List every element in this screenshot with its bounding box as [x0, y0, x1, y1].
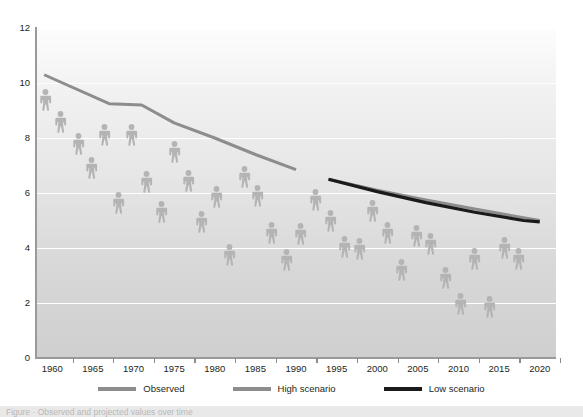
pictogram-person-icon: [54, 111, 67, 133]
pictogram-person-icon: [366, 200, 379, 222]
pictogram-person-icon: [381, 222, 394, 244]
pictogram-person-icon: [265, 222, 278, 244]
pictogram-person-icon: [395, 259, 408, 281]
y-tick-label: 2: [6, 298, 30, 307]
y-tick-label: 0: [6, 353, 30, 362]
pictogram-person-icon: [140, 171, 153, 193]
x-tick-mark: [438, 358, 439, 363]
pictogram-person-icon: [251, 185, 264, 207]
x-tick-mark: [194, 358, 195, 363]
pictogram-person-icon: [468, 248, 481, 270]
legend-item-low-scenario: Low scenario: [384, 384, 485, 394]
pictogram-person-icon: [483, 296, 496, 318]
y-tick-label: 12: [6, 23, 30, 32]
pictogram-person-icon: [424, 233, 437, 255]
caption-strip: Figure · Observed and projected values o…: [0, 406, 583, 417]
x-tick-label: 1965: [73, 364, 113, 374]
legend-swatch: [384, 387, 422, 391]
x-tick-mark: [154, 358, 155, 363]
pictogram-person-icon: [98, 124, 111, 146]
x-tick-label: 2010: [439, 364, 479, 374]
chart-legend: ObservedHigh scenarioLow scenario: [0, 381, 583, 397]
legend-label: High scenario: [278, 384, 336, 394]
caption-text: Figure · Observed and projected values o…: [6, 407, 193, 417]
series-line-high-scenario: [329, 179, 540, 220]
legend-label: Observed: [143, 384, 184, 394]
pictogram-person-icon: [498, 237, 511, 259]
pictogram-person-icon: [512, 248, 525, 270]
pictogram-person-icon: [195, 211, 208, 233]
x-tick-label: 2005: [398, 364, 438, 374]
x-tick-label: 1970: [114, 364, 154, 374]
y-tick-label: 4: [6, 243, 30, 252]
legend-label: Low scenario: [429, 384, 485, 394]
x-tick-label: 1985: [235, 364, 275, 374]
pictogram-person-icon: [72, 133, 85, 155]
pictogram-person-icon: [353, 238, 366, 260]
legend-item-observed: Observed: [98, 384, 184, 394]
x-tick-mark: [519, 358, 520, 363]
x-tick-mark: [398, 358, 399, 363]
pictogram-person-icon: [238, 166, 251, 188]
x-tick-label: 1960: [32, 364, 72, 374]
chart-figure: 024681012 196019651970197519801985199019…: [0, 0, 583, 417]
x-tick-label: 1990: [276, 364, 316, 374]
x-tick-mark: [560, 358, 561, 363]
pictogram-person-icon: [338, 236, 351, 258]
x-tick-mark: [73, 358, 74, 363]
x-tick-label: 1980: [195, 364, 235, 374]
y-tick-label: 10: [6, 78, 30, 87]
pictogram-person-icon: [280, 249, 293, 271]
pictogram-person-icon: [223, 244, 236, 266]
pictogram-person-icon: [182, 170, 195, 192]
legend-item-high-scenario: High scenario: [233, 384, 336, 394]
x-tick-mark: [276, 358, 277, 363]
x-tick-label: 1995: [317, 364, 357, 374]
x-tick-mark: [479, 358, 480, 363]
x-tick-label: 2015: [479, 364, 519, 374]
pictogram-person-icon: [168, 141, 181, 163]
x-tick-label: 2020: [520, 364, 560, 374]
pictogram-person-icon: [85, 157, 98, 179]
pictogram-person-icon: [324, 210, 337, 232]
x-tick-mark: [316, 358, 317, 363]
pictogram-person-icon: [39, 89, 52, 111]
y-tick-label: 6: [6, 188, 30, 197]
y-tick-label: 8: [6, 133, 30, 142]
pictogram-person-icon: [155, 201, 168, 223]
x-tick-mark: [357, 358, 358, 363]
x-tick-label: 2000: [357, 364, 397, 374]
pictogram-person-icon: [210, 186, 223, 208]
pictogram-person-icon: [112, 192, 125, 214]
x-tick-mark: [235, 358, 236, 363]
legend-swatch: [233, 387, 271, 390]
pictogram-person-icon: [294, 223, 307, 245]
x-tick-label: 1975: [154, 364, 194, 374]
pictogram-person-icon: [125, 124, 138, 146]
pictogram-person-icon: [439, 267, 452, 289]
pictogram-person-icon: [454, 293, 467, 315]
pictogram-person-icon: [309, 189, 322, 211]
x-tick-mark: [113, 358, 114, 363]
pictogram-person-icon: [410, 225, 423, 247]
legend-swatch: [98, 387, 136, 390]
